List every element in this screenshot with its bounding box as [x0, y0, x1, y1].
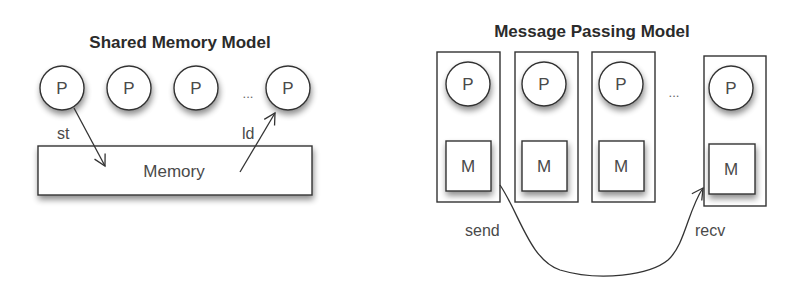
- processor-label: P: [190, 79, 201, 98]
- ellipsis: ...: [243, 86, 254, 101]
- processor-label: P: [725, 79, 736, 98]
- memory-block: Memory: [38, 146, 312, 195]
- message-passing-title: Message Passing Model: [494, 22, 690, 41]
- load-label: ld: [242, 125, 254, 142]
- compute-node: P M: [592, 52, 655, 202]
- diagram-canvas: Shared Memory Model Memory P P P ... P s…: [0, 0, 802, 285]
- shared-memory-title: Shared Memory Model: [89, 33, 270, 52]
- recv-label: recv: [695, 222, 725, 239]
- message-passing-diagram: Message Passing Model P M P M P M ...: [437, 22, 766, 276]
- memory-label: M: [724, 160, 738, 179]
- processor-node: P: [40, 66, 84, 110]
- compute-node: P M: [704, 56, 766, 206]
- compute-node: P M: [515, 52, 578, 202]
- memory-label: M: [461, 157, 475, 176]
- memory-label: M: [614, 157, 628, 176]
- processor-label: P: [615, 75, 626, 94]
- processor-node: P: [266, 66, 310, 110]
- processor-node: P: [174, 66, 218, 110]
- store-label: st: [57, 125, 70, 142]
- compute-node: P M: [437, 52, 500, 202]
- processor-label: P: [123, 79, 134, 98]
- send-label: send: [465, 222, 500, 239]
- processor-label: P: [538, 75, 549, 94]
- ellipsis: ...: [669, 85, 680, 100]
- processor-node: P: [107, 66, 151, 110]
- memory-label: M: [537, 157, 551, 176]
- processor-label: P: [282, 79, 293, 98]
- processor-label: P: [462, 75, 473, 94]
- memory-label: Memory: [143, 162, 205, 181]
- processor-label: P: [56, 79, 67, 98]
- shared-memory-diagram: Shared Memory Model Memory P P P ... P s…: [38, 33, 312, 195]
